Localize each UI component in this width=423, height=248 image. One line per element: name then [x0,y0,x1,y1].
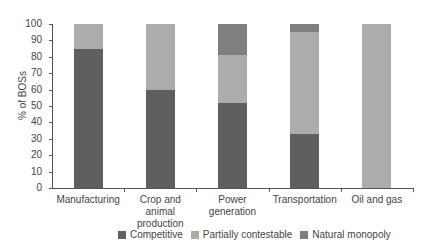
x-axis [52,188,413,189]
bar-segment-partially-contestable [146,24,175,90]
legend-item-partially-contestable: Partially contestable [191,229,293,240]
legend-item-competitive: Competitive [118,229,183,240]
y-tick-label: 20 [18,149,42,160]
y-tick-label: 70 [18,67,42,78]
bar-segment-partially-contestable [74,24,103,49]
y-tick [49,122,53,123]
y-tick-label: 10 [18,166,42,177]
bar-segment-partially-contestable [218,55,247,103]
y-tick-label: 40 [18,116,42,127]
y-tick [49,139,53,140]
x-tick-label: Powergeneration [197,194,269,218]
y-tick-label: 60 [18,84,42,95]
bar-segment-partially-contestable [290,32,319,134]
y-tick-label: 50 [18,100,42,111]
x-tick [196,188,197,192]
y-tick-label: 30 [18,133,42,144]
y-tick [49,106,53,107]
x-tick [124,188,125,192]
legend-item-natural-monopoly: Natural monopoly [300,229,390,240]
bar-power-generation [218,24,247,188]
y-tick [49,155,53,156]
bar-manufacturing [74,24,103,188]
legend: Competitive Partially contestable Natura… [118,229,391,240]
bar-segment-competitive [146,90,175,188]
y-tick [49,24,53,25]
legend-swatch-competitive [118,231,126,239]
legend-label: Natural monopoly [312,229,390,240]
y-tick [49,90,53,91]
bar-crop-and-animal-production [146,24,175,188]
bar-segment-natural-monopoly [218,24,247,55]
bar-segment-competitive [290,134,319,188]
y-tick [49,188,53,189]
legend-label: Partially contestable [203,229,293,240]
legend-swatch-partially-contestable [191,231,199,239]
bar-segment-natural-monopoly [290,24,319,32]
bar-segment-competitive [218,103,247,188]
bar-transportation [290,24,319,188]
y-tick-label: 80 [18,51,42,62]
x-tick-label: Crop and animalproduction [124,194,196,230]
x-tick [413,188,414,192]
legend-swatch-natural-monopoly [300,231,308,239]
y-tick [49,172,53,173]
bar-oil-and-gas [362,24,391,188]
legend-label: Competitive [130,229,183,240]
y-tick-label: 100 [18,18,42,29]
x-tick [341,188,342,192]
x-tick-label: Manufacturing [52,194,124,206]
y-tick [49,73,53,74]
x-tick-label: Oil and gas [341,194,413,206]
y-tick [49,40,53,41]
bar-segment-competitive [74,49,103,188]
y-tick [49,57,53,58]
bar-segment-partially-contestable [362,24,391,188]
x-tick [269,188,270,192]
x-tick-label: Transportation [269,194,341,206]
chart-title-fragment [0,0,423,3]
y-tick-label: 90 [18,34,42,45]
y-tick-label: 0 [18,182,42,193]
